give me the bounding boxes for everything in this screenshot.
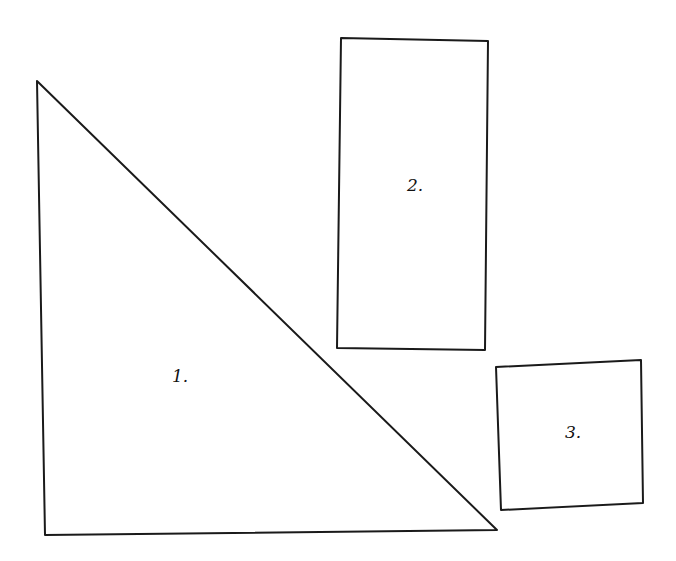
rectangle-label-2: 2. xyxy=(406,175,423,195)
triangle-label-1: 1. xyxy=(172,366,188,386)
shapes-diagram: 1. 2. 3. xyxy=(0,0,676,561)
square-label-3: 3. xyxy=(565,422,581,442)
